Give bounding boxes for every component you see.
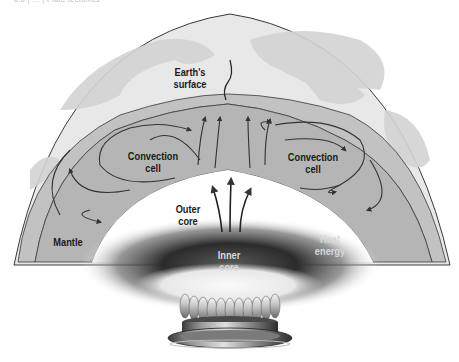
convection-diagram: 8.8 | ... | Plate tectonics: [0, 0, 459, 362]
inner-core-label: Inner core: [211, 249, 246, 273]
gas-burner-icon: [168, 316, 292, 348]
outer-core-label: Outer core: [170, 203, 205, 227]
diagram-canvas: [0, 0, 459, 362]
left-convection-cell-label: Convection cell: [127, 150, 180, 174]
mantle-label: Mantle: [50, 236, 85, 248]
heat-energy-label: Heat energy: [312, 233, 347, 257]
earth-surface-label: Earth's surface: [172, 66, 207, 90]
right-convection-cell-label: Convection cell: [287, 151, 340, 175]
